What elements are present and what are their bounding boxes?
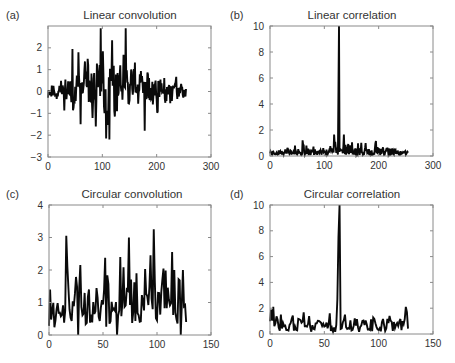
data-series-line xyxy=(270,26,408,155)
subplot-linear-convolution: (a) Linear convolution 0100200300−3−2−10… xyxy=(6,9,220,172)
panel-label: (c) xyxy=(6,188,19,200)
y-tick-label: 2 xyxy=(36,42,42,53)
axes-frame xyxy=(270,205,433,334)
x-tick-label: 100 xyxy=(94,161,111,172)
panel-label: (b) xyxy=(230,9,243,21)
y-tick-label: 10 xyxy=(253,21,265,32)
subplot-circular-convolution: (c) Circular convolution 05010015001234 xyxy=(6,188,220,350)
x-tick-label: 100 xyxy=(370,338,387,349)
y-tick-label: 0 xyxy=(258,151,264,162)
x-tick-label: 0 xyxy=(267,338,273,349)
x-tick-label: 0 xyxy=(46,339,52,350)
chart-title: Circular correlation xyxy=(304,188,401,200)
axes: 0100200300−3−2−1012 xyxy=(31,26,220,172)
x-tick-label: 50 xyxy=(319,338,331,349)
x-tick-label: 100 xyxy=(316,160,333,171)
x-tick-label: 200 xyxy=(148,161,165,172)
y-tick-label: 2 xyxy=(258,125,264,136)
y-tick-label: 1 xyxy=(37,297,43,308)
figure: (a) Linear convolution 0100200300−3−2−10… xyxy=(0,0,455,363)
x-tick-label: 150 xyxy=(425,338,442,349)
subplot-linear-correlation: (b) Linear correlation 01002003000246810 xyxy=(230,9,442,171)
x-tick-label: 0 xyxy=(45,161,51,172)
data-series-line xyxy=(48,28,186,139)
chart-title: Circular convolution xyxy=(82,188,183,200)
y-tick-label: −1 xyxy=(31,108,43,119)
y-tick-label: 10 xyxy=(253,200,265,211)
x-tick-label: 50 xyxy=(97,339,109,350)
y-tick-label: −3 xyxy=(31,152,43,163)
y-tick-label: 0 xyxy=(258,329,264,340)
x-tick-label: 300 xyxy=(203,161,220,172)
data-series-line xyxy=(49,229,186,335)
y-tick-label: 8 xyxy=(258,225,264,236)
y-tick-label: 1 xyxy=(36,64,42,75)
y-tick-label: 4 xyxy=(258,277,264,288)
y-tick-label: −2 xyxy=(31,130,43,141)
y-tick-label: 4 xyxy=(258,99,264,110)
panel-label: (d) xyxy=(230,188,243,200)
axes-frame xyxy=(270,26,433,156)
subplot-circular-correlation: (d) Circular correlation 050100150024681… xyxy=(230,188,442,349)
y-tick-label: 8 xyxy=(258,47,264,58)
chart-title: Linear convolution xyxy=(83,9,176,21)
axes: 05010015001234 xyxy=(37,200,219,351)
y-tick-label: 2 xyxy=(37,265,43,276)
chart-title: Linear correlation xyxy=(308,9,397,21)
y-tick-label: 6 xyxy=(258,73,264,84)
x-tick-label: 300 xyxy=(425,160,442,171)
y-tick-label: 3 xyxy=(37,232,43,243)
panel-label: (a) xyxy=(6,9,19,21)
x-tick-label: 100 xyxy=(149,339,166,350)
x-tick-label: 200 xyxy=(370,160,387,171)
x-tick-label: 0 xyxy=(267,160,273,171)
y-tick-label: 0 xyxy=(36,86,42,97)
axes: 0501001500246810 xyxy=(253,200,442,350)
y-tick-label: 0 xyxy=(37,330,43,341)
data-series-line xyxy=(270,205,408,332)
x-tick-label: 150 xyxy=(203,339,220,350)
y-tick-label: 2 xyxy=(258,303,264,314)
y-tick-label: 6 xyxy=(258,251,264,262)
y-tick-label: 4 xyxy=(37,200,43,211)
axes: 01002003000246810 xyxy=(253,21,442,172)
